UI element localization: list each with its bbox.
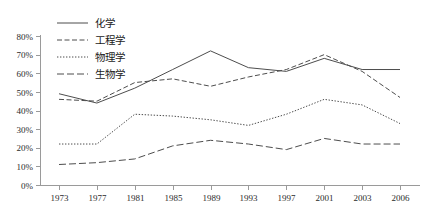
series-line-3 [59, 138, 400, 164]
series-line-2 [59, 99, 400, 144]
x-tick-label: 2006 [392, 193, 411, 203]
chart-canvas: 0%10%20%30%40%50%60%70%80% 1973197719811… [0, 0, 432, 218]
y-tick-label: 40% [17, 106, 34, 116]
legend-label-3: 生物学 [95, 68, 125, 80]
x-tick-label: 1997 [278, 193, 297, 203]
chart-legend: 化学工程学物理学生物学 [57, 17, 125, 80]
x-tick-label: 1977 [89, 193, 108, 203]
y-axis: 0%10%20%30%40%50%60%70%80% [17, 32, 41, 191]
y-tick-label: 50% [17, 88, 34, 98]
y-axis-ticks [36, 37, 41, 186]
x-tick-label: 1985 [165, 193, 184, 203]
x-tick-label: 1993 [240, 193, 259, 203]
y-tick-label: 0% [21, 181, 34, 191]
y-tick-label: 10% [17, 162, 34, 172]
y-tick-label: 30% [17, 125, 34, 135]
x-tick-label: 2003 [354, 193, 373, 203]
y-tick-label: 80% [17, 32, 34, 42]
x-tick-label: 1973 [51, 193, 70, 203]
x-tick-label: 1981 [127, 193, 145, 203]
y-axis-tick-labels: 0%10%20%30%40%50%60%70%80% [17, 32, 34, 191]
x-axis: 1973197719811985198919931997200120032006 [41, 186, 421, 204]
y-tick-label: 70% [17, 50, 34, 60]
x-axis-ticks [60, 186, 401, 191]
y-tick-label: 20% [17, 143, 34, 153]
x-axis-tick-labels: 1973197719811985198919931997200120032006 [51, 193, 411, 203]
x-tick-label: 2001 [316, 193, 334, 203]
legend-label-0: 化学 [95, 17, 115, 29]
legend-label-1: 工程学 [95, 34, 125, 46]
x-tick-label: 1989 [203, 193, 222, 203]
y-tick-label: 60% [17, 69, 34, 79]
line-chart: 0%10%20%30%40%50%60%70%80% 1973197719811… [0, 0, 432, 218]
legend-label-2: 物理学 [95, 51, 125, 63]
